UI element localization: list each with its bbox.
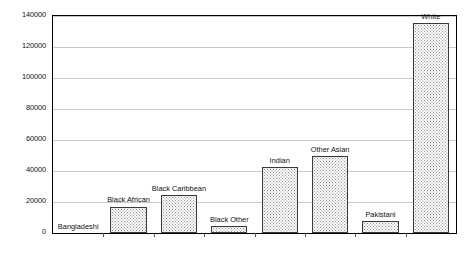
bar-label: Black African	[107, 196, 150, 203]
bar[interactable]	[211, 226, 247, 233]
y-axis-tick-label: 40000	[26, 166, 46, 173]
x-axis-tick	[406, 233, 407, 237]
y-axis-tick-label: 140000	[22, 11, 46, 18]
bar[interactable]	[262, 167, 298, 233]
x-axis-tick	[154, 233, 155, 237]
bar-label: Black Caribbean	[152, 185, 206, 192]
bar-slot: Black Other	[204, 16, 254, 233]
x-axis-tick	[355, 233, 356, 237]
plot-area: BangladeshiBlack AfricanBlack CaribbeanB…	[52, 15, 457, 234]
bar-slot: White	[406, 16, 456, 233]
bar-slot: Bangladeshi	[53, 16, 103, 233]
bar-label: Indian	[270, 157, 290, 164]
y-axis-tick-label: 20000	[26, 197, 46, 204]
bar-slot: Black Caribbean	[154, 16, 204, 233]
bar[interactable]	[110, 207, 146, 233]
x-axis-tick	[255, 233, 256, 237]
y-axis-tick-label: 60000	[26, 135, 46, 142]
y-axis-tick-label: 120000	[22, 42, 46, 49]
x-axis-tick	[305, 233, 306, 237]
bar-slot: Other Asian	[305, 16, 355, 233]
y-axis-tick-label: 80000	[26, 104, 46, 111]
y-axis: 020000400006000080000100000120000140000	[0, 0, 52, 253]
x-axis-tick	[103, 233, 104, 237]
bar-label: Pakistani	[365, 211, 395, 218]
bar-slot: Black African	[103, 16, 153, 233]
bar[interactable]	[161, 195, 197, 233]
bar-slot: Indian	[255, 16, 305, 233]
bar[interactable]	[362, 221, 398, 233]
bar-chart: 020000400006000080000100000120000140000 …	[0, 0, 465, 253]
x-axis-tick	[204, 233, 205, 237]
bar-label: White	[421, 13, 440, 20]
bar[interactable]	[413, 23, 449, 233]
bar-slot: Pakistani	[355, 16, 405, 233]
y-axis-tick-label: 0	[42, 228, 46, 235]
y-axis-tick-label: 100000	[22, 73, 46, 80]
bars-group: BangladeshiBlack AfricanBlack CaribbeanB…	[53, 16, 456, 233]
bar-label: Other Asian	[311, 146, 350, 153]
bar-label: Black Other	[210, 216, 249, 223]
bar-label: Bangladeshi	[58, 223, 99, 230]
bar[interactable]	[312, 156, 348, 233]
